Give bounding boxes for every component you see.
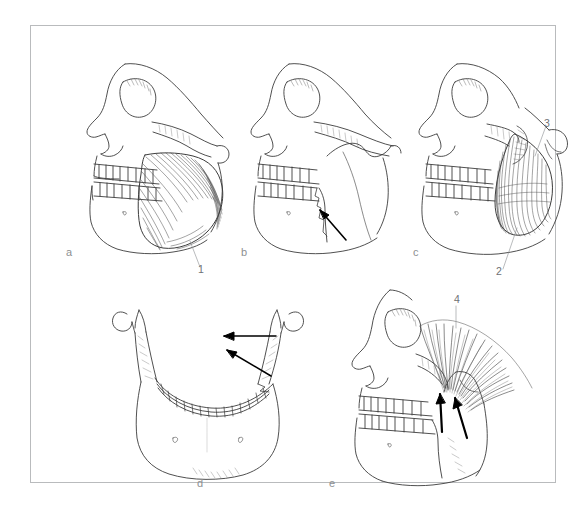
- panel-c-illustration: [399, 60, 579, 260]
- panel-letter-a: a: [66, 246, 72, 258]
- figure-frame-border: 1 a: [30, 25, 556, 483]
- anatomy-figure: 1 a: [0, 0, 586, 510]
- panel-e: 4 e: [336, 288, 571, 483]
- panel-letter-e: e: [329, 477, 335, 489]
- panel-d-illustration: [93, 292, 323, 482]
- panel-b: b: [231, 60, 401, 260]
- panel-e-illustration: [336, 288, 571, 483]
- panel-letter-b: b: [241, 246, 247, 258]
- panel-a: 1 a: [67, 60, 233, 260]
- callout-number-1: 1: [198, 263, 204, 275]
- panel-letter-c: c: [413, 246, 419, 258]
- panel-b-illustration: [231, 60, 401, 260]
- callout-number-2: 2: [496, 265, 502, 277]
- panel-letter-d: d: [197, 477, 203, 489]
- callout-number-3: 3: [544, 117, 550, 129]
- callout-number-4: 4: [454, 293, 460, 305]
- panel-a-illustration: [67, 60, 233, 260]
- panel-d: d: [93, 292, 323, 482]
- panel-c: 3 2 c: [399, 60, 579, 260]
